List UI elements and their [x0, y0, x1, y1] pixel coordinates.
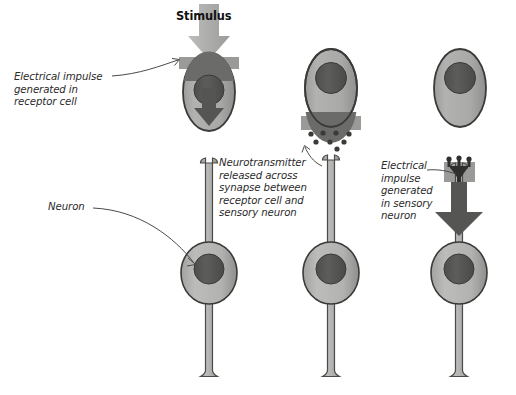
- leader-line-neurotransmitter: [305, 147, 322, 166]
- diagram-page: Stimulus Electrical impulse generated in…: [0, 0, 516, 395]
- impulse-arrow-sensory-icon: [435, 182, 483, 236]
- sensory-neuron-2: [303, 155, 359, 377]
- panel-3-receptor-cell-group: [434, 49, 486, 127]
- stimulus-title-label: Stimulus: [176, 9, 232, 23]
- neuron-nucleus: [194, 254, 224, 284]
- receptor-cell-nucleus: [445, 63, 476, 94]
- panel-2-receptor-cell-group: [301, 49, 361, 152]
- panel-1-receptor-cell-group: [179, 4, 239, 131]
- leader-line-electrical-receptor: [112, 60, 178, 76]
- label-neurotransmitter-release: Neurotransmitter released across synapse…: [219, 157, 307, 220]
- neuron-nucleus: [444, 254, 474, 284]
- label-neuron: Neuron: [48, 201, 85, 214]
- label-electrical-impulse-receptor-cell: Electrical impulse generated in receptor…: [14, 71, 102, 109]
- label-electrical-impulse-sensory-neuron: Electrical impulse generated in sensory …: [381, 160, 433, 223]
- neuron-nucleus: [316, 254, 346, 284]
- receptor-cell-nucleus: [316, 63, 347, 94]
- leader-line-neuron: [93, 208, 194, 263]
- sensory-neuron-3: [431, 155, 487, 376]
